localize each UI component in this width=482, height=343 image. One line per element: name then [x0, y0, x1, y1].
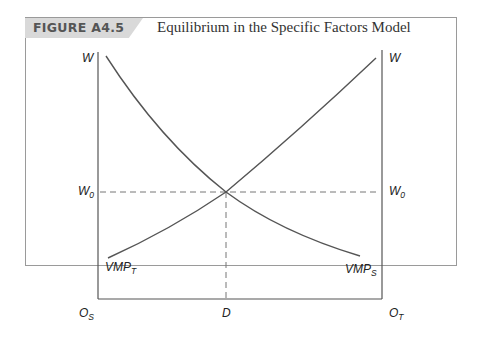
vmp-t-curve — [108, 58, 376, 258]
vmp-s-label: VMPS — [345, 262, 377, 278]
right-axis-label: W — [389, 51, 400, 65]
origin-s-label: OS — [79, 306, 94, 322]
left-axis-label: W — [82, 51, 93, 65]
vmp-t-label: VMPT — [105, 260, 136, 276]
vmp-s-curve — [106, 56, 360, 256]
w0-left-label: W0 — [78, 184, 94, 200]
d-label: D — [222, 306, 231, 320]
w0-right-label: W0 — [389, 184, 405, 200]
diagram-canvas — [0, 0, 482, 343]
origin-t-label: OT — [389, 306, 404, 322]
